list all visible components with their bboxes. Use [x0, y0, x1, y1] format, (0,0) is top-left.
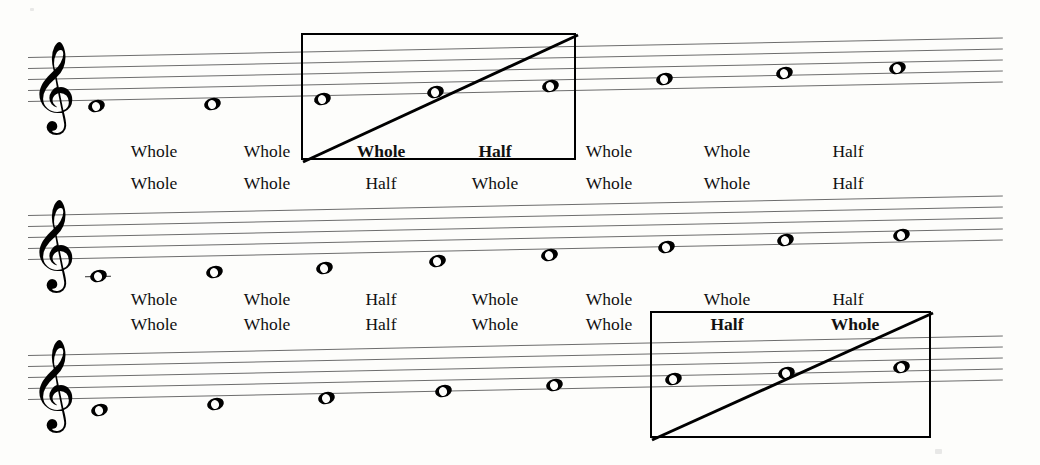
interval-label: Half [365, 288, 396, 310]
interval-label: Whole [244, 140, 291, 162]
whole-note [541, 249, 558, 261]
interval-label: Whole [472, 172, 519, 194]
whole-note [656, 73, 673, 85]
whole-note [665, 373, 682, 385]
interval-label: Whole [704, 288, 751, 310]
whole-note [88, 100, 105, 112]
whole-note [427, 86, 444, 98]
staff-line [28, 70, 1003, 91]
interval-label: Half [365, 313, 396, 335]
music-sheet: 𝄞 WholeWholeWholeHalfWholeWholeHalf Whol… [0, 0, 1040, 465]
interval-row-1-upper: WholeWholeWholeHalfWholeWholeHalf [0, 140, 1040, 162]
whole-note [893, 361, 910, 373]
staff-line [28, 335, 1003, 356]
whole-note [204, 98, 221, 110]
interval-label: Half [478, 140, 511, 162]
interval-label: Half [832, 288, 863, 310]
staff-line [28, 239, 1003, 260]
whole-note [542, 80, 559, 92]
interval-label: Whole [831, 313, 880, 335]
interval-label: Half [365, 172, 396, 194]
staff-line [28, 206, 1003, 227]
interval-label: Whole [357, 140, 406, 162]
staff-line [28, 368, 1003, 389]
interval-row-2-upper: WholeWholeHalfWholeWholeWholeHalf [0, 288, 1040, 310]
staff-line [28, 195, 1003, 216]
whole-note [778, 367, 795, 379]
interval-label: Whole [586, 172, 633, 194]
interval-label: Whole [586, 288, 633, 310]
whole-note [776, 67, 793, 79]
interval-label: Whole [586, 313, 633, 335]
interval-label: Whole [472, 313, 519, 335]
staff-line [28, 357, 1003, 378]
whole-note [90, 270, 107, 282]
interval-label: Whole [586, 140, 633, 162]
interval-label: Whole [131, 288, 178, 310]
interval-label: Half [710, 313, 743, 335]
treble-clef-icon: 𝄞 [30, 204, 76, 282]
interval-row-2-lower: WholeWholeHalfWholeWholeHalfWhole [0, 313, 1040, 335]
staff-line [28, 81, 1003, 102]
staff-line [28, 346, 1003, 367]
interval-label: Whole [472, 288, 519, 310]
whole-note [206, 266, 223, 278]
interval-label: Whole [131, 172, 178, 194]
interval-label: Half [832, 140, 863, 162]
treble-clef-icon: 𝄞 [30, 344, 76, 422]
whole-note [893, 229, 910, 241]
interval-row-1-lower: WholeWholeHalfWholeWholeWholeHalf [0, 172, 1040, 194]
whole-note [429, 255, 446, 267]
interval-label: Whole [131, 313, 178, 335]
interval-label: Half [832, 172, 863, 194]
interval-label: Whole [704, 172, 751, 194]
staff-line [28, 59, 1003, 80]
whole-note [658, 241, 675, 253]
interval-label: Whole [704, 140, 751, 162]
staff-lines-3 [0, 0, 1040, 60]
scan-speck [30, 8, 34, 11]
whole-note [777, 234, 794, 246]
interval-label: Whole [244, 313, 291, 335]
whole-note [207, 398, 224, 410]
interval-label: Whole [131, 140, 178, 162]
whole-note [318, 392, 335, 404]
whole-note [91, 404, 108, 416]
staff-line [28, 217, 1003, 238]
scan-speck [935, 449, 942, 454]
whole-note [889, 62, 906, 74]
whole-note [435, 385, 452, 397]
whole-note [316, 262, 333, 274]
staff-line [28, 379, 1003, 400]
interval-label: Whole [244, 288, 291, 310]
interval-label: Whole [244, 172, 291, 194]
whole-note [546, 379, 563, 391]
whole-note [314, 93, 331, 105]
staff-line [28, 228, 1003, 249]
